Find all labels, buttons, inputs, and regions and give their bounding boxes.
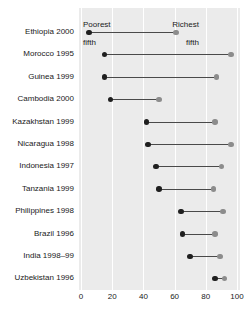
poorest-fifth-dot[interactable] (180, 231, 186, 237)
category-label: Philippines 1998 (0, 206, 74, 215)
x-tick-label-20: 20 (108, 292, 117, 302)
gridline-0 (81, 8, 82, 290)
connector-line (89, 32, 176, 33)
gridline-40 (143, 8, 144, 290)
x-tick-label-40: 40 (139, 292, 148, 302)
value-axis: 020406080100 (0, 292, 248, 312)
richest-fifth-annotation-line2: fifth (147, 38, 199, 47)
poorest-fifth-annotation-line1: Poorest (83, 20, 111, 29)
category-label: Morocco 1995 (0, 49, 74, 58)
x-tick-label-60: 60 (170, 292, 179, 302)
richest-fifth-annotation-line1: Richest (147, 20, 199, 29)
connector-line (111, 99, 159, 100)
connector-line (104, 77, 216, 78)
gridline-80 (206, 8, 207, 290)
category-label: Indonesia 1997 (0, 161, 74, 170)
poorest-fifth-dot[interactable] (156, 186, 162, 192)
richest-fifth-dot[interactable] (212, 119, 218, 125)
x-tick-label-100: 100 (230, 292, 243, 302)
category-label: Nicaragua 1998 (0, 139, 74, 148)
category-label: Tanzania 1999 (0, 184, 74, 193)
richest-fifth-dot[interactable] (219, 164, 225, 170)
category-axis-labels: Ethiopia 2000Morocco 1995Guinea 1999Camb… (0, 0, 74, 316)
plot-area: Poorest fifth Richest fifth (79, 8, 240, 290)
connector-line (156, 166, 222, 167)
poorest-fifth-dot[interactable] (145, 142, 151, 148)
category-label: Brazil 1996 (0, 229, 74, 238)
richest-fifth-dot[interactable] (217, 254, 223, 260)
richest-fifth-dot[interactable] (228, 52, 234, 58)
connector-line (147, 122, 216, 123)
poorest-fifth-dot[interactable] (144, 119, 150, 125)
poorest-fifth-dot[interactable] (102, 52, 108, 58)
poorest-fifth-dot[interactable] (153, 164, 159, 170)
gridline-20 (112, 8, 113, 290)
category-label: Kazakhstan 1999 (0, 117, 74, 126)
poorest-fifth-dot[interactable] (178, 209, 184, 215)
x-tick-label-0: 0 (79, 292, 83, 302)
category-label: Cambodia 2000 (0, 94, 74, 103)
richest-fifth-dot[interactable] (156, 97, 162, 103)
category-label: Uzbekistan 1996 (0, 273, 74, 282)
richest-fifth-dot[interactable] (222, 276, 228, 282)
connector-line (104, 54, 230, 55)
richest-fifth-dot[interactable] (228, 142, 234, 148)
poorest-fifth-dot[interactable] (212, 276, 218, 282)
poorest-fifth-dot[interactable] (102, 74, 108, 80)
category-label: Guinea 1999 (0, 72, 74, 81)
connector-line (182, 234, 215, 235)
poorest-fifth-dot[interactable] (187, 254, 193, 260)
connector-line (148, 144, 231, 145)
richest-fifth-dot[interactable] (211, 186, 217, 192)
richest-fifth-dot[interactable] (212, 231, 218, 237)
gridline-100 (237, 8, 238, 290)
x-tick-label-80: 80 (201, 292, 210, 302)
poorest-fifth-annotation-line2: fifth (83, 38, 111, 47)
richest-fifth-dot[interactable] (220, 209, 226, 215)
richest-fifth-dot[interactable] (173, 30, 179, 36)
richest-fifth-dot[interactable] (214, 74, 220, 80)
connector-line (159, 189, 214, 190)
connector-line (181, 211, 223, 212)
chart-container: Ethiopia 2000Morocco 1995Guinea 1999Camb… (0, 0, 248, 316)
poorest-fifth-dot[interactable] (86, 30, 92, 36)
category-label: India 1998–99 (0, 251, 74, 260)
category-label: Ethiopia 2000 (0, 27, 74, 36)
connector-line (190, 256, 220, 257)
